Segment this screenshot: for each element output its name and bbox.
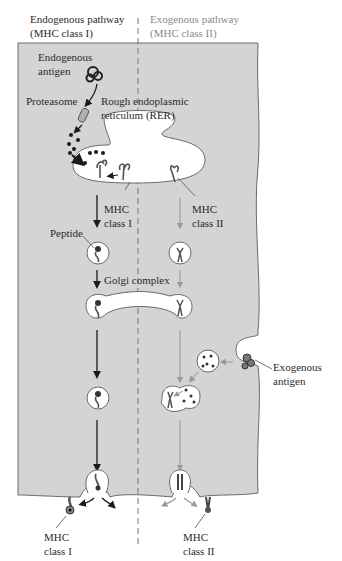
label-mhc-class-ii-rer: MHC class II <box>192 202 223 230</box>
antigen-processing-diagram <box>0 0 342 561</box>
vesicle-class-i-peptide <box>87 242 109 264</box>
label-mhc-class-ii-surface: MHC class II <box>183 530 214 558</box>
label-rer: Rough endoplasmic reticulum (RER) <box>101 94 189 122</box>
header-endogenous-pathway: Endogenous pathway (MHC class I) <box>30 12 124 40</box>
surface-mhc-class-i-icon <box>66 497 74 514</box>
label-peptide: Peptide <box>50 226 83 240</box>
label-mhc-class-i-surface: MHC class I <box>44 530 72 558</box>
label-golgi-complex: Golgi complex <box>104 273 170 287</box>
surface-mhc-class-ii-icon <box>205 497 211 513</box>
vesicle-class-ii <box>169 242 191 264</box>
label-proteasome: Proteasome <box>26 94 77 108</box>
vesicle-class-i-transport <box>87 387 109 409</box>
label-mhc-class-i-rer: MHC class I <box>104 202 132 230</box>
fused-endosome <box>162 386 201 412</box>
header-exogenous-pathway: Exogenous pathway (MHC class II) <box>150 12 239 40</box>
label-endogenous-antigen: Endogenous antigen <box>38 50 92 78</box>
label-exogenous-antigen: Exogenous antigen <box>273 360 322 388</box>
endocytic-vesicle <box>197 350 219 372</box>
